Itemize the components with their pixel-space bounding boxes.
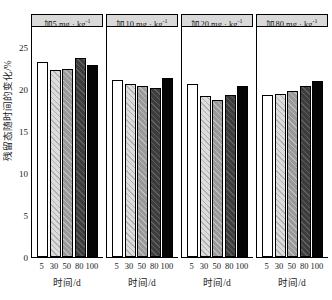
panel-title-superscript: -1 [85, 18, 90, 24]
x-axis-label: 时间/d [181, 276, 253, 290]
x-tick-label: 50 [137, 260, 146, 272]
plot-area [31, 27, 103, 258]
panel-title-superscript: -1 [238, 18, 243, 24]
panel-3: 加20 mg · kg-15305080100时间/d [181, 14, 253, 260]
x-tick-label: 5 [189, 260, 193, 272]
panel-title-superscript: -1 [313, 18, 318, 24]
x-tick-label: 80 [75, 260, 84, 272]
x-axis-ticks: 5305080100 [106, 260, 178, 272]
x-tick-label: 30 [50, 260, 59, 272]
x-axis-ticks: 5305080100 [181, 260, 253, 272]
x-axis-label: 时间/d [256, 276, 328, 290]
x-tick-label: 50 [212, 260, 221, 272]
bar[interactable] [262, 95, 273, 257]
bar[interactable] [225, 95, 236, 257]
x-tick-label: 50 [62, 260, 71, 272]
bar[interactable] [312, 81, 323, 257]
x-tick-label: 80 [150, 260, 159, 272]
panel-title: 加10 mg · kg-1 [106, 14, 178, 27]
bar[interactable] [37, 62, 48, 257]
bar[interactable] [212, 100, 223, 257]
panel-4: 加80 mg · kg-15305080100时间/d [256, 14, 328, 260]
x-tick-label: 100 [236, 260, 249, 272]
panel-2: 加10 mg · kg-15305080100时间/d [106, 14, 178, 260]
x-tick-label: 5 [264, 260, 268, 272]
y-tick-label: 10 [19, 170, 28, 179]
bar-group [182, 27, 253, 257]
panel-title-superscript: -1 [163, 18, 168, 24]
panel-title-text: 加5 mg · kg [44, 19, 86, 27]
bar[interactable] [287, 91, 298, 257]
x-tick-label: 30 [275, 260, 284, 272]
y-tick-label: 15 [19, 128, 28, 137]
y-tick-label: 5 [24, 212, 29, 221]
panel-title-text: 加20 mg · kg [191, 19, 237, 27]
bar[interactable] [200, 96, 211, 257]
panel-title-text: 加10 mg · kg [116, 19, 162, 27]
x-tick-label: 50 [287, 260, 296, 272]
x-axis-label: 时间/d [31, 276, 103, 290]
panel-title-text: 加80 mg · kg [266, 19, 312, 27]
plot-area [181, 27, 253, 258]
x-tick-label: 5 [39, 260, 43, 272]
panel-title: 加5 mg · kg-1 [31, 14, 103, 27]
bar[interactable] [75, 58, 86, 257]
bar[interactable] [162, 78, 173, 257]
bar[interactable] [237, 86, 248, 257]
bar-group [107, 27, 178, 257]
bar-group [257, 27, 328, 257]
y-axis-label-text: 残留态随时间的变化/% [3, 11, 14, 211]
bar[interactable] [87, 65, 98, 257]
x-axis-label: 时间/d [106, 276, 178, 290]
x-axis-ticks: 5305080100 [31, 260, 103, 272]
bar[interactable] [112, 80, 123, 257]
y-tick-label: 25 [19, 44, 28, 53]
bar[interactable] [50, 70, 61, 257]
y-axis-ticks: 0510152025 [14, 0, 30, 300]
bar[interactable] [275, 94, 286, 257]
y-tick-label: 20 [19, 86, 28, 95]
x-tick-label: 5 [114, 260, 118, 272]
bar[interactable] [125, 84, 136, 257]
x-tick-label: 100 [311, 260, 324, 272]
panel-1: 加5 mg · kg-15305080100时间/d [31, 14, 103, 260]
bar[interactable] [187, 84, 198, 257]
x-tick-label: 80 [300, 260, 309, 272]
x-tick-label: 30 [125, 260, 134, 272]
y-tick-label: 0 [24, 254, 29, 263]
bar[interactable] [150, 88, 161, 257]
x-axis-ticks: 5305080100 [256, 260, 328, 272]
plot-area [106, 27, 178, 258]
figure-residual-fraction-over-time: 残留态随时间的变化/% 0510152025 加5 mg · kg-153050… [0, 0, 332, 300]
x-tick-label: 80 [225, 260, 234, 272]
bar[interactable] [300, 86, 311, 257]
panel-title: 加80 mg · kg-1 [256, 14, 328, 27]
bar[interactable] [137, 86, 148, 257]
x-tick-label: 30 [200, 260, 209, 272]
x-tick-label: 100 [161, 260, 174, 272]
bar[interactable] [62, 69, 73, 257]
x-tick-label: 100 [86, 260, 99, 272]
plot-area [256, 27, 328, 258]
bar-group [32, 27, 103, 257]
panel-title: 加20 mg · kg-1 [181, 14, 253, 27]
